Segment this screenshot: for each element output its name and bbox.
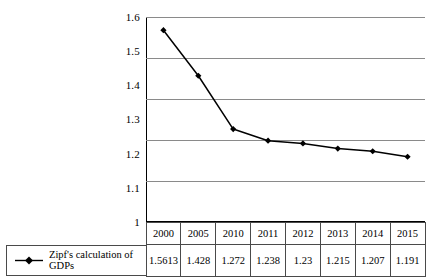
table-header-cell: 2013 [320, 223, 355, 245]
y-tick-label: 1.2 [126, 149, 140, 160]
table-value-cell: 1.238 [251, 245, 286, 277]
legend-entry[interactable]: Zipf's calculation of GDPs [6, 245, 146, 276]
table-header-cell: 2014 [355, 223, 390, 245]
table-value-cell: 1.428 [181, 245, 216, 277]
legend-line-marker-icon [14, 255, 44, 266]
legend-label: Zipf's calculation of GDPs [49, 249, 146, 272]
chart-figure: 1.6 1.5 1.4 1.3 1.2 1.1 1 [0, 0, 436, 280]
data-point-marker [370, 148, 376, 154]
data-point-marker [335, 145, 341, 151]
data-table: Zipf's calculation of GDPs 2000 2005 201… [6, 222, 426, 277]
table-value-cell: 1.5613 [146, 245, 181, 277]
legend-cell: Zipf's calculation of GDPs [6, 223, 146, 277]
table-value-cell: 1.191 [390, 245, 425, 277]
data-point-marker [265, 138, 271, 144]
table-header-cell: 2015 [390, 223, 425, 245]
table-value-cell: 1.215 [320, 245, 355, 277]
table-header-cell: 2012 [286, 223, 321, 245]
y-tick-label: 1.6 [126, 12, 140, 23]
data-point-marker [300, 140, 306, 146]
table-value-cell: 1.207 [355, 245, 390, 277]
plot-area [146, 17, 425, 222]
y-axis-labels: 1.6 1.5 1.4 1.3 1.2 1.1 1 [0, 0, 146, 240]
y-tick-label: 1.4 [126, 80, 140, 91]
data-series-line [146, 17, 425, 222]
y-tick-label: 1.5 [126, 46, 140, 57]
table-header-cell: 2010 [216, 223, 251, 245]
table-header-cell: 2011 [251, 223, 286, 245]
y-tick-label: 1.3 [126, 114, 140, 125]
table-value-cell: 1.272 [216, 245, 251, 277]
table-value-cell: 1.23 [286, 245, 321, 277]
y-tick-label: 1.1 [126, 183, 140, 194]
table-header-row: Zipf's calculation of GDPs 2000 2005 201… [6, 223, 425, 245]
data-point-marker [404, 154, 410, 160]
table-header-cell: 2005 [181, 223, 216, 245]
table-header-cell: 2000 [146, 223, 181, 245]
